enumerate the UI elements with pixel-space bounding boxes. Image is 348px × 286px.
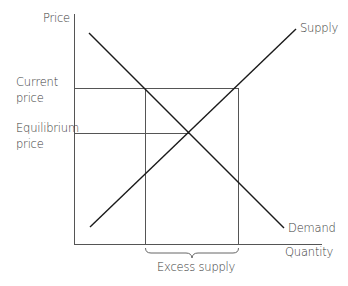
equilibrium-price-label-line2: price — [16, 137, 44, 151]
current-price-label-line1: Current — [16, 75, 58, 89]
current-price-label-line2: price — [16, 91, 44, 105]
x-axis-label: Quantity — [285, 245, 333, 259]
supply-demand-diagram — [0, 0, 348, 286]
y-axis-label: Price — [30, 11, 70, 25]
excess-supply-brace — [146, 248, 239, 258]
equilibrium-price-label-line1: Equilibrium — [16, 121, 79, 135]
supply-curve-label: Supply — [300, 21, 338, 35]
excess-supply-label: Excess supply — [157, 260, 235, 274]
demand-curve-label: Demand — [288, 221, 336, 235]
supply-curve — [90, 29, 296, 227]
demand-curve — [89, 33, 284, 228]
